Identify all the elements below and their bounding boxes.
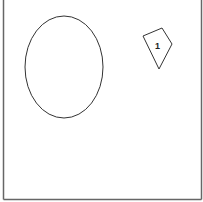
kite-label: 1 — [155, 41, 160, 51]
diagram-canvas: 1 — [0, 0, 203, 202]
frame — [4, 0, 202, 200]
ellipse-shape — [25, 16, 103, 118]
